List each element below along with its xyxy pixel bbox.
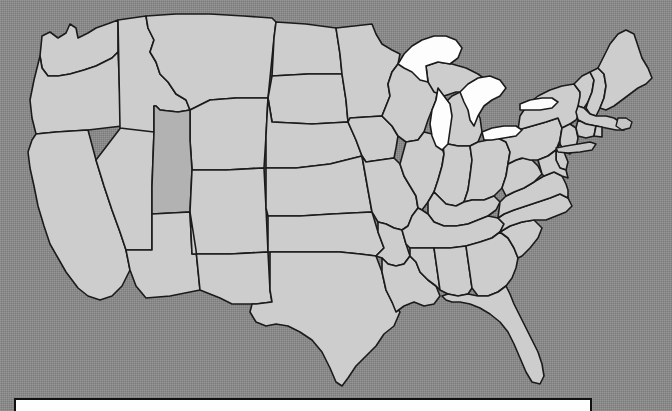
state-wyoming[interactable] (190, 98, 268, 170)
lake-ontario (520, 98, 558, 110)
state-ohio[interactable] (464, 138, 510, 202)
state-rhode-island[interactable] (594, 126, 602, 137)
bottom-panel-text (16, 400, 590, 411)
state-utah[interactable] (152, 106, 192, 214)
bottom-panel[interactable] (14, 398, 592, 411)
state-south-dakota[interactable] (268, 74, 348, 124)
state-texas[interactable] (250, 252, 400, 386)
state-colorado[interactable] (190, 168, 268, 254)
state-maine[interactable] (598, 30, 652, 110)
state-florida[interactable] (442, 286, 544, 384)
state-north-dakota[interactable] (272, 22, 342, 76)
us-states-map[interactable] (0, 0, 672, 411)
state-oklahoma[interactable] (268, 212, 384, 256)
screenshot-root (0, 0, 672, 411)
island-cape-cod (616, 118, 632, 130)
